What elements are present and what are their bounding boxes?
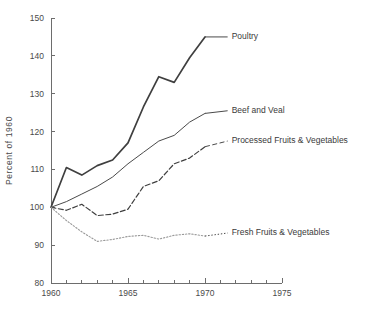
y-axis-tick-label: 150 — [30, 13, 44, 23]
y-axis-tick-label: 90 — [35, 240, 45, 250]
chart-container: 8090100110120130140150 1960196519701975 … — [0, 0, 381, 314]
series-label-2: Processed Fruits & Vegetables — [232, 135, 348, 145]
x-axis-tick-label: 1965 — [119, 288, 138, 298]
series-lines — [51, 37, 205, 241]
y-axis-tick-label: 120 — [30, 127, 44, 137]
y-axis-tick-label: 130 — [30, 89, 44, 99]
series-line-2 — [51, 147, 205, 216]
x-axis-tick-label: 1970 — [196, 288, 215, 298]
line-chart: 8090100110120130140150 1960196519701975 … — [0, 0, 381, 314]
series-line-3 — [51, 207, 205, 241]
series-leader-1 — [205, 111, 228, 114]
series-leader-2 — [205, 141, 228, 147]
series-label-0: Poultry — [232, 31, 259, 41]
y-axis-tick-label: 110 — [30, 164, 44, 174]
y-axis-tick-label: 80 — [35, 278, 45, 288]
y-axis: 8090100110120130140150 — [30, 13, 55, 288]
series-leader-3 — [205, 233, 228, 236]
series-line-0 — [51, 37, 205, 207]
series-labels: PoultryBeef and VealProcessed Fruits & V… — [205, 31, 348, 237]
y-axis-tick-label: 140 — [30, 51, 44, 61]
x-axis: 1960196519701975 — [42, 278, 292, 298]
series-label-1: Beef and Veal — [232, 105, 285, 115]
series-label-3: Fresh Fruits & Vegetables — [232, 227, 330, 237]
y-axis-title: Percent of 1960 — [4, 116, 14, 185]
x-axis-tick-label: 1960 — [42, 288, 61, 298]
x-axis-tick-label: 1975 — [273, 288, 292, 298]
y-axis-tick-label: 100 — [30, 202, 44, 212]
